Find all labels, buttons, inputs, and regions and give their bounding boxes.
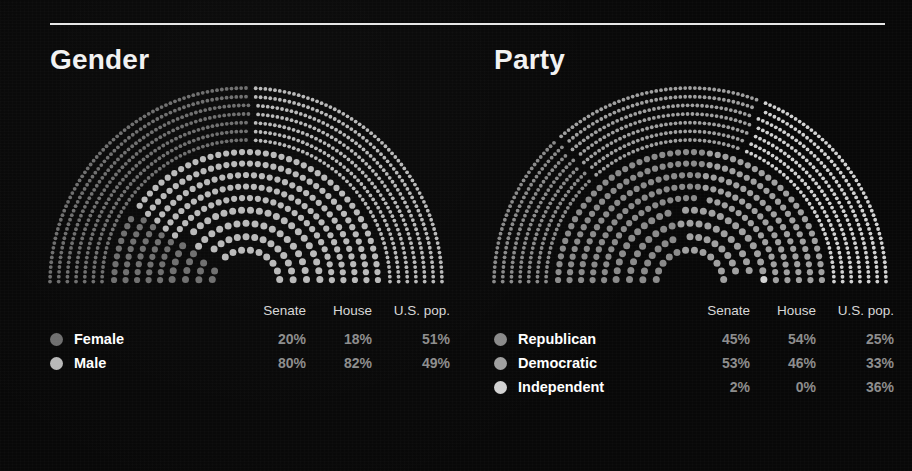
arc-dot: [220, 131, 224, 135]
arc-dot: [403, 256, 407, 260]
arc-dot: [781, 119, 785, 123]
arc-dot: [327, 180, 333, 186]
arc-dot: [84, 265, 88, 269]
arc-dot: [529, 223, 533, 227]
arc-dot: [101, 265, 105, 269]
arc-dot: [727, 143, 731, 147]
arc-dot: [806, 125, 810, 129]
arc-dot: [50, 256, 54, 260]
arc-dot: [152, 185, 158, 191]
arc-dot: [786, 133, 790, 137]
arc-dot: [93, 171, 97, 175]
arc-dot: [361, 171, 365, 175]
arc-dot: [602, 232, 608, 238]
arc-dot: [337, 119, 341, 123]
arc-dot: [64, 232, 68, 236]
arc-dot: [618, 137, 622, 141]
arc-dot: [553, 152, 557, 156]
arc-dot: [301, 235, 308, 242]
arc-dot: [805, 198, 809, 202]
arc-dot: [755, 98, 759, 102]
arc-dot: [598, 217, 604, 223]
arc-dot: [720, 276, 727, 283]
arc-dot: [834, 151, 838, 155]
arc-dot: [371, 169, 375, 173]
arc-dot: [400, 214, 404, 218]
arc-dot: [154, 217, 160, 223]
arc-dot: [853, 241, 857, 245]
arc-dot: [842, 232, 846, 236]
arc-dot: [522, 246, 526, 250]
arc-dot: [510, 270, 514, 274]
arc-dot: [323, 141, 327, 145]
arc-dot: [839, 171, 843, 175]
arc-dot: [782, 173, 786, 177]
arc-dot: [773, 115, 777, 119]
arc-dot: [292, 92, 296, 96]
arc-dot: [278, 166, 284, 172]
arc-dot: [207, 154, 213, 160]
legend-row[interactable]: Republican45%54%25%: [494, 327, 894, 351]
arc-dot: [409, 214, 413, 218]
arc-dot: [158, 135, 162, 139]
arc-dot: [849, 265, 853, 269]
arc-dot: [346, 146, 350, 150]
arc-dot: [597, 149, 601, 153]
arc-dot: [552, 141, 556, 145]
arc-dot: [794, 161, 798, 165]
arc-dot: [594, 162, 598, 166]
legend-row[interactable]: Female20%18%51%: [50, 327, 450, 351]
arc-dot: [660, 260, 667, 267]
arc-dot: [664, 131, 668, 135]
arc-dot: [206, 143, 210, 147]
arc-dot: [264, 139, 268, 143]
arc-dot: [819, 223, 823, 227]
arc-dot: [238, 207, 245, 214]
arc-dot: [808, 202, 812, 206]
arc-dot: [216, 164, 222, 170]
arc-dot: [158, 156, 162, 160]
legend-row[interactable]: Democratic53%46%33%: [494, 351, 894, 375]
arc-dot: [308, 166, 314, 172]
arc-dot: [549, 246, 553, 250]
arc-dot: [201, 100, 205, 104]
arc-dot: [598, 138, 602, 142]
arc-dot: [68, 218, 72, 222]
arc-dot: [826, 241, 830, 245]
arc-dot: [789, 179, 793, 183]
arc-dot: [314, 146, 318, 150]
arc-dot: [158, 167, 162, 171]
arc-dot: [271, 152, 277, 158]
arc-dot: [737, 159, 743, 165]
arc-dot: [736, 137, 740, 141]
arc-dot: [779, 159, 783, 163]
arc-dot: [238, 247, 245, 254]
arc-dot: [209, 276, 216, 283]
legend-label-text: Male: [74, 355, 106, 371]
arc-dot: [830, 206, 834, 210]
arc-dot: [595, 119, 599, 123]
legend-row[interactable]: Independent2%0%36%: [494, 375, 894, 399]
arc-dot: [105, 219, 109, 223]
arc-dot: [304, 123, 308, 127]
arc-dot: [608, 246, 614, 252]
arc-dot: [87, 218, 91, 222]
arc-dot: [371, 214, 375, 218]
arc-dot: [584, 183, 588, 187]
arc-dot: [199, 118, 203, 122]
arc-dot: [173, 183, 179, 189]
arc-dot: [606, 154, 610, 158]
arc-dot: [622, 135, 626, 139]
arc-dot: [587, 125, 591, 129]
arc-dot: [402, 218, 406, 222]
arc-dot: [879, 236, 883, 240]
arc-dot: [142, 157, 146, 161]
arc-dot: [854, 196, 858, 200]
arc-dot: [875, 265, 879, 269]
arc-dot: [318, 159, 322, 163]
arc-dot: [582, 161, 586, 165]
legend-row[interactable]: Male80%82%49%: [50, 351, 450, 375]
arc-dot: [180, 125, 184, 129]
arc-dot: [847, 223, 851, 227]
arc-dot: [201, 136, 205, 140]
